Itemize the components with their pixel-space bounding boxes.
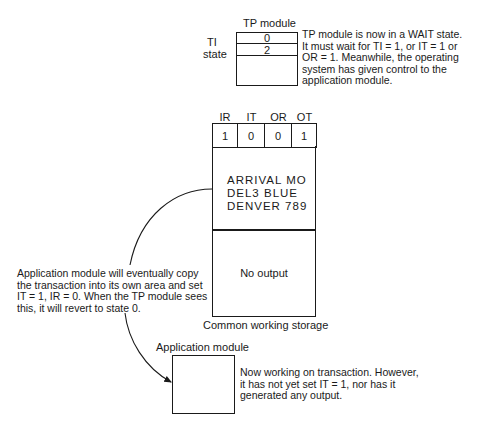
note-line: Now working on transaction. However, bbox=[240, 367, 419, 379]
application-module-box bbox=[172, 355, 235, 414]
input-line: DEL3 BLUE bbox=[227, 187, 307, 200]
application-module-note: Now working on transaction. However, it … bbox=[240, 367, 419, 402]
note-line: TP module is now in a WAIT state. bbox=[302, 29, 462, 41]
flag-header-ir: IR bbox=[212, 111, 238, 123]
note-line: this, it will revert to state 0. bbox=[17, 303, 207, 315]
ti-cell: 0 bbox=[237, 33, 297, 44]
tp-module-box: 0 2 bbox=[236, 32, 298, 86]
state-label: state bbox=[203, 48, 227, 60]
note-line: generated any output. bbox=[240, 390, 419, 402]
flag-header-it: IT bbox=[238, 111, 265, 123]
copy-note: Application module will eventually copy … bbox=[17, 268, 207, 314]
note-line: application module. bbox=[302, 75, 462, 87]
ti-label: TI bbox=[207, 36, 217, 48]
input-text: ARRIVAL MO DEL3 BLUE DENVER 789 bbox=[227, 174, 307, 213]
input-line: DENVER 789 bbox=[227, 200, 307, 213]
tp-empty-cell bbox=[237, 56, 297, 82]
state-cell: 2 bbox=[237, 44, 297, 56]
flag-header-or: OR bbox=[265, 111, 292, 123]
output-text: No output bbox=[213, 267, 315, 279]
flag-ot-value: 1 bbox=[292, 124, 316, 147]
tp-module-title: TP module bbox=[243, 17, 296, 29]
flag-ir-value: 1 bbox=[213, 124, 238, 147]
flag-it-value: 0 bbox=[238, 124, 265, 147]
note-line: Application module will eventually copy bbox=[17, 268, 207, 280]
tp-module-note: TP module is now in a WAIT state. It mus… bbox=[302, 29, 462, 87]
flag-headers: IR IT OR OT bbox=[212, 111, 317, 123]
application-module-title: Application module bbox=[156, 341, 249, 353]
input-line: ARRIVAL MO bbox=[227, 174, 307, 187]
flag-row: 1 0 0 1 bbox=[212, 123, 317, 148]
storage-caption: Common working storage bbox=[203, 319, 328, 331]
output-area: No output bbox=[212, 229, 316, 317]
flag-header-ot: OT bbox=[292, 111, 317, 123]
input-area: ARRIVAL MO DEL3 BLUE DENVER 789 bbox=[212, 146, 316, 231]
flag-or-value: 0 bbox=[265, 124, 292, 147]
